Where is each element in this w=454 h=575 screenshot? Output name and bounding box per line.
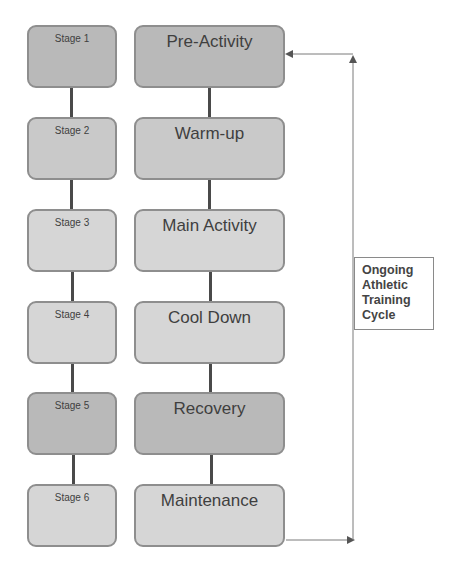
- cycle-label-line: Ongoing: [362, 263, 433, 278]
- cycle-label: Ongoing Athletic Training Cycle: [354, 257, 434, 330]
- cycle-label-line: Athletic: [362, 278, 433, 293]
- cycle-label-line: Training: [362, 293, 433, 308]
- cycle-label-line: Cycle: [362, 308, 433, 323]
